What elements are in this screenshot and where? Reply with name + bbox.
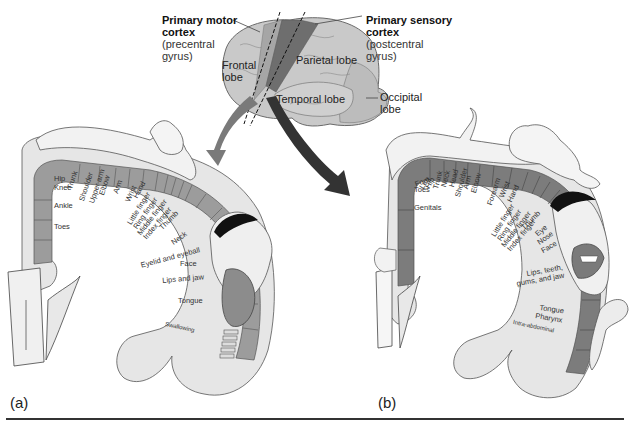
motor-region-tongue: Tongue bbox=[178, 297, 203, 305]
motor-cortex-sub-2: gyrus) bbox=[162, 50, 193, 62]
motor-cortex-sub-1: (precentral bbox=[162, 38, 215, 50]
motor-cortex-title-1: Primary motor bbox=[162, 14, 237, 26]
sensory-region-genitals: Genitals bbox=[414, 204, 442, 212]
sensory-cortex-sub-1: (postcentral bbox=[366, 38, 423, 50]
temporal-lobe-label: Temporal lobe bbox=[276, 94, 345, 105]
motor-cortex-title-2: cortex bbox=[162, 26, 195, 38]
frontal-lobe-label-1: Frontal bbox=[222, 60, 256, 71]
motor-homunculus bbox=[8, 121, 274, 395]
motor-region-ankle: Ankle bbox=[54, 202, 73, 210]
occipital-lobe-label-2: lobe bbox=[380, 104, 401, 115]
motor-region-hip: Hip bbox=[54, 175, 65, 183]
sensory-cortex-title-2: cortex bbox=[366, 26, 399, 38]
sensory-cortex-title-1: Primary sensory bbox=[366, 14, 452, 26]
panel-a-label: (a) bbox=[10, 394, 28, 411]
parietal-lobe-label: Parietal lobe bbox=[296, 55, 357, 66]
sensory-cortex-sub-2: gyrus) bbox=[366, 50, 397, 62]
bottom-divider bbox=[6, 418, 624, 420]
sensory-homunculus bbox=[374, 108, 628, 398]
motor-region-toes: Toes bbox=[54, 223, 70, 231]
frontal-lobe-label-2: lobe bbox=[222, 72, 243, 83]
motor-region-face: Face bbox=[180, 260, 197, 268]
sensory-region-toes: Toes bbox=[414, 186, 430, 194]
motor-arrow bbox=[206, 96, 258, 166]
occipital-lobe-label-1: Occipital bbox=[380, 92, 422, 103]
panel-b-label: (b) bbox=[378, 394, 396, 411]
